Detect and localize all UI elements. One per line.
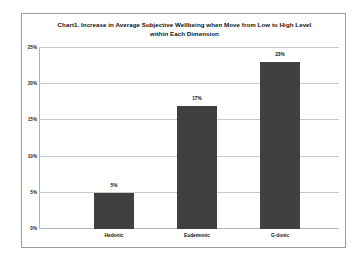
y-tick-label-20: 20% <box>11 81 37 86</box>
plot-area: 25% 20% 15% 10% 5% 0% 5% 17% 23% Hedonic… <box>39 47 339 229</box>
bar-g-donic[interactable] <box>260 62 300 229</box>
x-category-label-g-donic: G-donic <box>260 233 300 238</box>
y-axis-line <box>39 47 40 229</box>
bar-value-hedonic: 5% <box>94 183 134 188</box>
chart-figure: Chart1. Increase in Average Subjective W… <box>0 0 364 264</box>
bar-value-eudemonic: 17% <box>177 96 217 101</box>
chart-title-line-2: within Each Dimension <box>48 29 321 38</box>
chart-title-line-1: Chart1. Increase in Average Subjective W… <box>48 20 321 29</box>
y-tick-label-0: 0% <box>11 226 37 231</box>
bar-eudemonic[interactable] <box>177 106 217 229</box>
y-tick-label-10: 10% <box>11 154 37 159</box>
bar-hedonic[interactable] <box>94 193 134 229</box>
x-category-label-eudemonic: Eudemonic <box>177 233 217 238</box>
y-tick-label-5: 5% <box>11 190 37 195</box>
x-category-label-hedonic: Hedonic <box>94 233 134 238</box>
y-tick-label-15: 15% <box>11 117 37 122</box>
y-tick-label-25: 25% <box>11 45 37 50</box>
gridline-25 <box>39 47 339 48</box>
chart-title: Chart1. Increase in Average Subjective W… <box>48 20 321 38</box>
chart-frame: Chart1. Increase in Average Subjective W… <box>21 13 346 248</box>
bar-value-g-donic: 23% <box>260 52 300 57</box>
